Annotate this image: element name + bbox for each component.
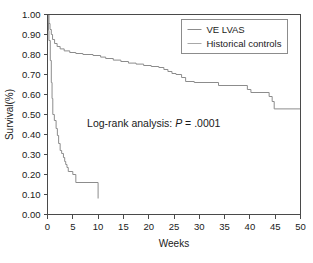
- x-tick-label: 30: [194, 221, 205, 232]
- x-axis-title: Weeks: [159, 238, 189, 249]
- x-tick-label: 25: [169, 221, 180, 232]
- x-tick-label: 5: [70, 221, 75, 232]
- series-line-1: [48, 15, 99, 199]
- x-tick-label: 45: [270, 221, 281, 232]
- y-tick-label: 0.80: [22, 49, 41, 60]
- annotation-suffix: = .0001: [182, 117, 220, 129]
- annotation-p-symbol: P: [175, 117, 182, 129]
- chart-legend: VE LVASHistorical controls: [182, 20, 288, 54]
- y-tick-label: 0.60: [22, 89, 41, 100]
- y-tick-label: 0.00: [22, 209, 41, 220]
- y-tick-label: 0.20: [22, 169, 41, 180]
- x-tick-label: 10: [93, 221, 104, 232]
- y-tick-label: 0.30: [22, 149, 41, 160]
- x-tick-label: 40: [245, 221, 256, 232]
- legend-label: Historical controls: [207, 38, 282, 49]
- x-tick-label: 0: [45, 221, 50, 232]
- log-rank-annotation: Log-rank analysis: P = .0001: [87, 117, 221, 129]
- y-tick-label: 0.70: [22, 69, 41, 80]
- y-tick-label: 0.40: [22, 129, 41, 140]
- x-tick-label: 35: [219, 221, 230, 232]
- y-tick-label: 1.00: [22, 9, 41, 20]
- y-tick-label: 0.90: [22, 29, 41, 40]
- x-tick-label: 50: [295, 221, 306, 232]
- chart-canvas: 0.000.100.200.300.400.500.600.700.800.90…: [0, 0, 313, 263]
- annotation-prefix: Log-rank analysis:: [87, 117, 175, 129]
- legend-label: VE LVAS: [207, 24, 245, 35]
- y-tick-label: 0.10: [22, 189, 41, 200]
- chart-annotations: Log-rank analysis: P = .0001: [87, 117, 221, 129]
- x-tick-label: 15: [118, 221, 129, 232]
- survival-curve-figure: 0.000.100.200.300.400.500.600.700.800.90…: [0, 0, 313, 263]
- y-tick-label: 0.50: [22, 109, 41, 120]
- x-tick-label: 20: [143, 221, 154, 232]
- y-axis-title: Survival(%): [4, 89, 15, 140]
